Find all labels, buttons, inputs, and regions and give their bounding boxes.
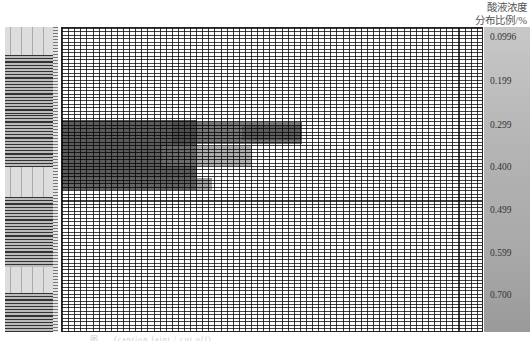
strip-band <box>5 267 53 293</box>
colorbar <box>484 27 530 332</box>
core-image-strip <box>5 27 53 332</box>
plume-mid <box>162 146 252 166</box>
colorbar-tick: 0.400 <box>490 162 511 172</box>
colorbar-tick: 0.199 <box>490 76 511 86</box>
plume-upper-right <box>242 126 302 140</box>
strip-edge <box>53 27 58 332</box>
strip-band <box>5 293 53 332</box>
strip-band <box>5 27 53 55</box>
colorbar-tick: 0.599 <box>490 248 511 258</box>
strip-band <box>5 55 53 115</box>
colorbar-tick: 0.499 <box>490 205 511 215</box>
figure-caption: 图 ... (caption faint / cut off) <box>90 333 450 341</box>
colorbar-tick: 0.0996 <box>490 32 516 42</box>
strip-band <box>5 197 53 267</box>
colorbar-tick: 0.299 <box>490 120 511 130</box>
colorbar-title-line1: 酸液浓度 <box>475 1 527 14</box>
plume-lower <box>62 178 212 190</box>
colorbar-title: 酸液浓度 分布比例/% <box>475 1 527 27</box>
colorbar-tick: 0.700 <box>490 290 511 300</box>
strip-band <box>5 167 53 197</box>
strip-band <box>5 115 53 167</box>
heatmap-grid <box>61 27 483 332</box>
colorbar-title-line2: 分布比例/% <box>475 14 527 27</box>
